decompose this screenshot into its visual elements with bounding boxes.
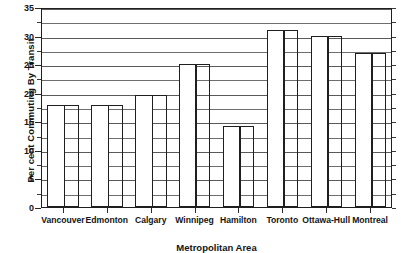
- right-axis-tick: [392, 8, 396, 9]
- bar-group[interactable]: [135, 95, 168, 207]
- y-axis-tick-label: 10: [24, 146, 34, 155]
- plot-area: [41, 8, 392, 208]
- bar-hatched[interactable]: [283, 30, 298, 207]
- right-axis-tick: [392, 79, 396, 80]
- x-axis-tick-label: Ottawa-Hull: [302, 215, 350, 225]
- x-axis-tick: [151, 208, 152, 213]
- x-axis-tick-label: Vancouver: [41, 215, 84, 225]
- bar-hatched[interactable]: [64, 105, 79, 207]
- right-axis-tick: [392, 94, 396, 95]
- right-axis-tick: [392, 108, 396, 109]
- bar-group[interactable]: [91, 105, 124, 207]
- bar-group[interactable]: [223, 126, 256, 207]
- y-axis-tick-label: 35: [24, 4, 34, 13]
- right-axis-tick: [392, 22, 396, 23]
- bar-hatched[interactable]: [152, 95, 167, 207]
- right-axis-tick: [392, 122, 396, 123]
- bar[interactable]: [179, 64, 197, 207]
- bar-hatched[interactable]: [239, 126, 254, 207]
- x-axis-tick: [326, 208, 327, 213]
- bar[interactable]: [135, 95, 153, 207]
- y-axis-tick-label: 25: [24, 61, 34, 70]
- bar[interactable]: [311, 36, 329, 207]
- bar-group[interactable]: [179, 64, 212, 207]
- bar-hatched[interactable]: [371, 53, 386, 207]
- x-axis-tick: [282, 208, 283, 213]
- bar[interactable]: [47, 105, 65, 207]
- x-axis-tick-label: Calgary: [135, 215, 167, 225]
- right-axis-tick: [392, 179, 396, 180]
- x-axis-ticks: [41, 208, 392, 215]
- y-axis-tick-label: 15: [24, 118, 34, 127]
- bar-hatched[interactable]: [108, 105, 123, 207]
- right-axis-tick: [392, 65, 396, 66]
- x-axis-tick-labels: VancouverEdmontonCalgaryWinnipegHamilton…: [41, 215, 392, 231]
- right-axis-tick: [392, 51, 396, 52]
- x-axis-tick-label: Toronto: [266, 215, 298, 225]
- y-axis-tick-label: 20: [24, 89, 34, 98]
- bar-chart: Per cent Commuting By Transit 0510152025…: [0, 0, 401, 253]
- x-axis-tick-label: Winnipeg: [175, 215, 214, 225]
- y-axis-tick-label: 0: [29, 204, 34, 213]
- x-axis-tick: [107, 208, 108, 213]
- bar[interactable]: [91, 105, 109, 207]
- x-axis-tick-label: Montreal: [352, 215, 388, 225]
- bar-group[interactable]: [311, 36, 344, 207]
- bar-group[interactable]: [47, 105, 80, 207]
- y-axis-ticks: 05101520253035: [0, 0, 41, 253]
- bar-hatched[interactable]: [195, 64, 210, 207]
- right-axis-ticks: [392, 0, 400, 253]
- bar-series: [42, 9, 391, 207]
- right-axis-tick: [392, 194, 396, 195]
- bar-group[interactable]: [267, 30, 300, 207]
- right-axis-tick: [392, 37, 396, 38]
- x-axis-title: Metropolitan Area: [41, 242, 392, 253]
- y-axis-tick-label: 30: [24, 32, 34, 41]
- bar-hatched[interactable]: [327, 36, 342, 207]
- bar[interactable]: [355, 53, 373, 207]
- x-axis-tick: [370, 208, 371, 213]
- right-axis-tick: [392, 151, 396, 152]
- x-axis-tick: [63, 208, 64, 213]
- right-axis-tick: [392, 137, 396, 138]
- x-axis-tick-label: Edmonton: [86, 215, 128, 225]
- right-axis-tick: [392, 165, 396, 166]
- right-axis-tick: [392, 208, 396, 209]
- bar[interactable]: [267, 30, 285, 207]
- x-axis-tick-label: Hamilton: [220, 215, 257, 225]
- y-axis-tick-label: 5: [29, 175, 34, 184]
- bar-group[interactable]: [355, 53, 388, 207]
- x-axis-tick: [238, 208, 239, 213]
- x-axis-tick: [195, 208, 196, 213]
- bar[interactable]: [223, 126, 241, 207]
